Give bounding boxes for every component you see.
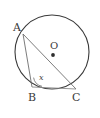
vertex-label-b: B: [28, 91, 36, 104]
vertex-label-a: A: [12, 21, 22, 34]
geometry-figure: x O A B C: [0, 0, 100, 118]
center-point-dot: [51, 53, 55, 57]
vertex-label-c: C: [72, 91, 80, 104]
center-label-o: O: [50, 40, 58, 51]
geometry-canvas: x O A B C: [0, 0, 100, 118]
angle-x-label: x: [39, 73, 44, 82]
